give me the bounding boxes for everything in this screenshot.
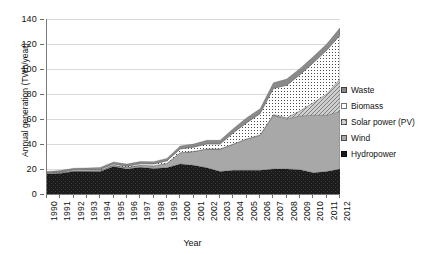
x-tick-label: 2010	[316, 201, 325, 221]
x-tick-label: 1999	[170, 201, 179, 221]
y-tick-mark	[40, 169, 44, 170]
chart-legend: WasteBiomassSolar power (PV)WindHydropow…	[341, 82, 433, 162]
x-tick-label: 2000	[183, 201, 192, 221]
x-axis-ticks: 1990199119921993199419951996199719981999…	[46, 195, 339, 241]
x-tick-label: 1992	[77, 201, 86, 221]
stacked-area-chart: Annual generation (TWh/year) 02040608010…	[0, 0, 433, 254]
x-tick-mark	[113, 195, 114, 198]
biomass-swatch	[341, 103, 347, 109]
legend-label: Waste	[351, 86, 374, 95]
legend-label: Hydropower	[351, 150, 396, 159]
x-tick-mark	[59, 195, 60, 198]
x-tick-mark	[166, 195, 167, 198]
x-tick-label: 1997	[143, 201, 152, 221]
x-tick-mark	[86, 195, 87, 198]
x-tick-mark	[299, 195, 300, 198]
area-series-wind	[47, 112, 340, 175]
x-tick-mark	[73, 195, 74, 198]
legend-label: Solar power (PV)	[351, 118, 415, 127]
legend-item-wind[interactable]: Wind	[341, 130, 433, 146]
y-tick-mark	[40, 19, 44, 20]
legend-item-hydropower[interactable]: Hydropower	[341, 146, 433, 162]
x-tick-label: 1995	[117, 201, 126, 221]
legend-item-solar-power-pv[interactable]: Solar power (PV)	[341, 114, 433, 130]
plot-area	[46, 19, 340, 195]
solar-swatch	[341, 119, 347, 125]
wind-swatch	[341, 135, 347, 141]
x-tick-label: 1994	[103, 201, 112, 221]
legend-item-waste[interactable]: Waste	[341, 82, 433, 98]
y-tick-label: 80	[27, 90, 37, 99]
x-axis-title: Year	[46, 238, 339, 248]
x-tick-mark	[339, 195, 340, 198]
x-tick-mark	[193, 195, 194, 198]
y-tick-mark	[40, 144, 44, 145]
y-tick-mark	[40, 194, 44, 195]
y-tick-label: 20	[27, 165, 37, 174]
x-tick-label: 2011	[330, 201, 339, 220]
x-tick-mark	[312, 195, 313, 198]
x-tick-label: 1990	[50, 201, 59, 221]
y-axis-ticks: 020406080100120140	[0, 19, 44, 194]
x-tick-mark	[99, 195, 100, 198]
waste-swatch	[341, 87, 347, 93]
y-tick-label: 140	[21, 15, 37, 24]
y-tick-mark	[40, 119, 44, 120]
x-tick-mark	[206, 195, 207, 198]
x-tick-label: 2004	[236, 201, 245, 221]
x-tick-mark	[126, 195, 127, 198]
x-tick-mark	[232, 195, 233, 198]
x-tick-label: 1991	[63, 201, 72, 221]
y-tick-label: 60	[27, 115, 37, 124]
x-tick-mark	[46, 195, 47, 198]
x-tick-mark	[259, 195, 260, 198]
x-tick-mark	[326, 195, 327, 198]
series-paths	[47, 28, 340, 194]
x-tick-label: 1998	[157, 201, 166, 221]
x-tick-mark	[286, 195, 287, 198]
area-series-group	[47, 19, 340, 194]
x-tick-label: 2003	[223, 201, 232, 221]
x-tick-label: 2001	[197, 201, 206, 221]
y-tick-label: 0	[32, 190, 37, 199]
y-tick-label: 40	[27, 140, 37, 149]
x-tick-mark	[219, 195, 220, 198]
hydropower-swatch	[341, 151, 347, 157]
y-tick-label: 120	[21, 40, 37, 49]
x-tick-mark	[179, 195, 180, 198]
x-tick-mark	[139, 195, 140, 198]
x-tick-label: 1993	[90, 201, 99, 221]
y-tick-mark	[40, 94, 44, 95]
x-tick-mark	[272, 195, 273, 198]
legend-item-biomass[interactable]: Biomass	[341, 98, 433, 114]
x-tick-label: 2002	[210, 201, 219, 221]
x-tick-label: 1996	[130, 201, 139, 221]
y-tick-label: 100	[21, 65, 37, 74]
legend-label: Wind	[351, 134, 370, 143]
legend-label: Biomass	[351, 102, 383, 111]
x-tick-label: 2012	[343, 201, 352, 221]
x-tick-label: 2009	[303, 201, 312, 221]
x-tick-label: 2008	[290, 201, 299, 221]
x-tick-label: 2005	[250, 201, 259, 221]
y-tick-mark	[40, 44, 44, 45]
x-tick-label: 2007	[276, 201, 285, 221]
y-tick-mark	[40, 69, 44, 70]
x-tick-label: 2006	[263, 201, 272, 221]
x-tick-mark	[153, 195, 154, 198]
x-tick-mark	[246, 195, 247, 198]
